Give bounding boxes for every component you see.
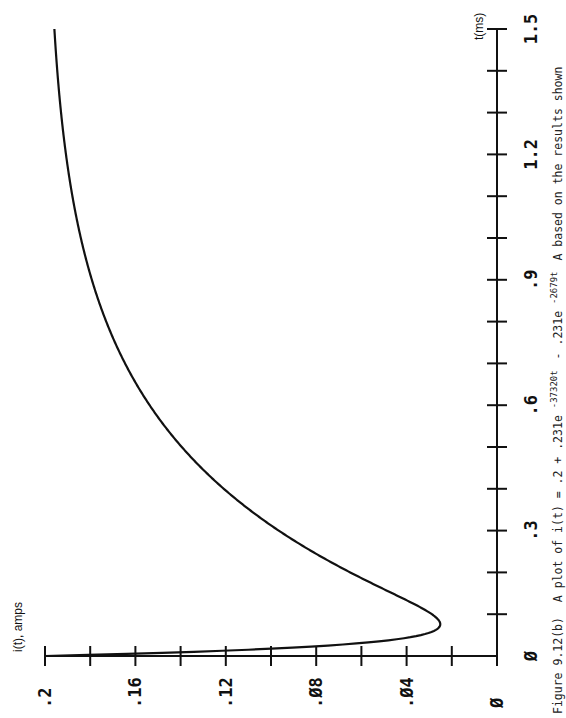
current-axis-title: i(t), amps [11,602,25,652]
time-tick-label: Ø [521,650,541,662]
time-tick-label: .3 [521,520,541,540]
time-axis-title: t(ms) [472,13,486,40]
current-plot: .2.16.12.Ø8.Ø4Ø Ø.3.6.91.21.5 i(t), amps… [0,0,566,718]
caption-figure: Figure 9.12(b) [551,617,565,714]
caption-mid: - .231e [551,311,565,360]
time-tick-label: 1.2 [521,139,541,170]
time-tick-label: .6 [521,395,541,415]
current-tick-label: Ø [487,697,507,709]
current-tick-label: .Ø8 [306,677,326,708]
time-tick-label: .9 [521,270,541,290]
caption-tail: A based on the results shown [551,67,565,261]
caption-text: A plot of i(t) = .2 + .231e [551,415,565,602]
caption-exp1: -37320t [549,370,559,408]
caption-exp2: -2679t [549,271,559,304]
current-tick-label: .16 [125,677,145,708]
current-tick-label: .Ø4 [397,677,417,708]
figure-caption: Figure 9.12(b) A plot of i(t) = .2 + .23… [546,67,565,714]
time-axis-tick-labels: Ø.3.6.91.21.5 [521,14,541,662]
current-tick-label: .2 [35,688,55,708]
current-tick-label: .12 [216,677,236,708]
current-axis-tick-labels: .2.16.12.Ø8.Ø4Ø [35,677,507,709]
time-tick-label: 1.5 [521,14,541,45]
current-curve [45,29,440,656]
